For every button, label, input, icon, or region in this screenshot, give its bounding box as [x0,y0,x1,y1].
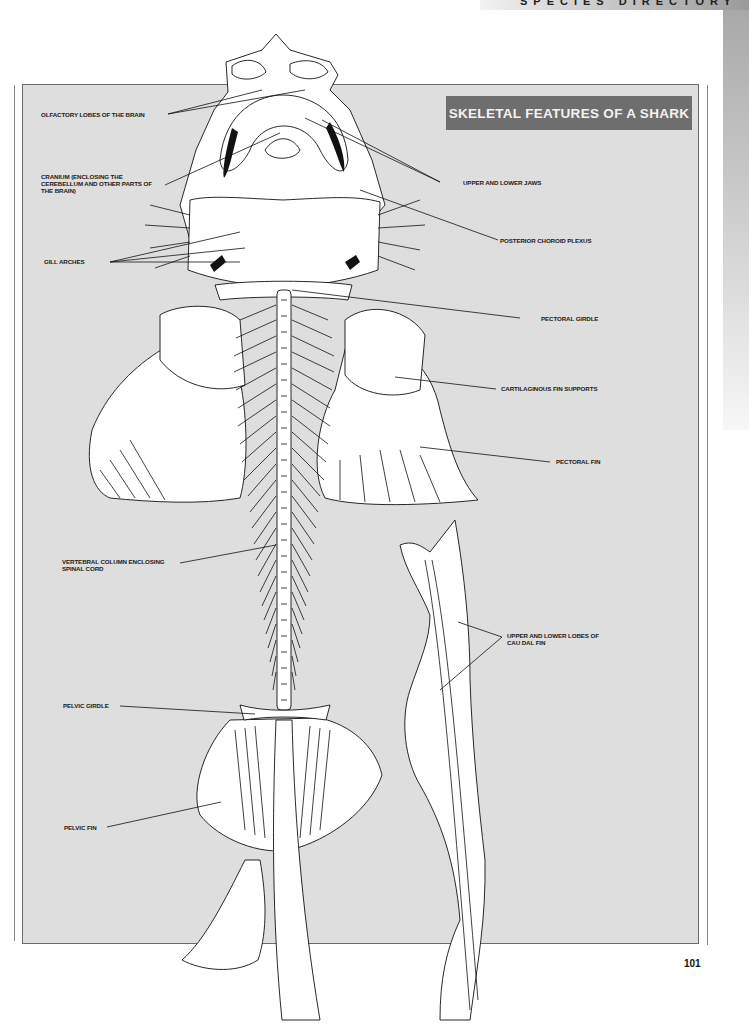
label-olfactory-lobes: OLFACTORY LOBES OF THE BRAIN [41,111,145,118]
label-cranium: CRANIUM (ENCLOSING THE CEREBELLUM AND OT… [41,173,152,195]
figure-title: SKELETAL FEATURES OF A SHARK [446,96,692,130]
label-vertebral-column: VERTEBRAL COLUMN ENCLOSING SPINAL CORD [62,558,164,572]
gill-region [188,197,380,288]
label-pectoral-fin: PECTORAL FIN [556,458,600,465]
label-pectoral-girdle: PECTORAL GIRDLE [541,315,598,322]
label-caudal-fin: UPPER AND LOWER LOBES OF CAU DAL FIN [507,632,599,646]
right-fin-supports [345,309,425,395]
label-choroid-plexus: POSTERIOR CHOROID PLEXUS [500,237,591,244]
page-number: 101 [684,958,701,969]
label-fin-supports: CARTILAGINOUS FIN SUPPORTS [501,385,597,392]
label-pelvic-fin: PELVIC FIN [64,824,97,831]
vertebral-column [277,290,291,710]
label-pelvic-girdle: PELVIC GIRDLE [63,702,109,709]
label-gill-arches: GILL ARCHES [44,258,85,265]
shark-skeleton-illustration [0,0,749,1027]
label-jaws: UPPER AND LOWER JAWS [463,179,541,186]
caudal-fin [400,520,485,1020]
